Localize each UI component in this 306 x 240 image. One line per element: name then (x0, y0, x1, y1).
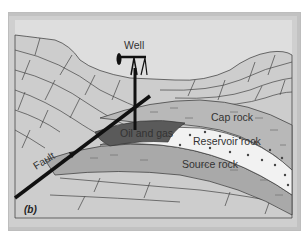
source-rock-label: Source rock (182, 158, 239, 170)
reservoir-rock-label: Reservoir rock (193, 135, 261, 147)
cap-rock-label: Cap rock (211, 111, 254, 123)
oil-and-gas-label: Oil and gas (120, 127, 173, 139)
panel-label: (b) (24, 204, 37, 215)
well-label: Well (124, 39, 144, 51)
oil-trap-diagram: Well Cap rock Reservoir rock Source rock… (0, 0, 306, 240)
